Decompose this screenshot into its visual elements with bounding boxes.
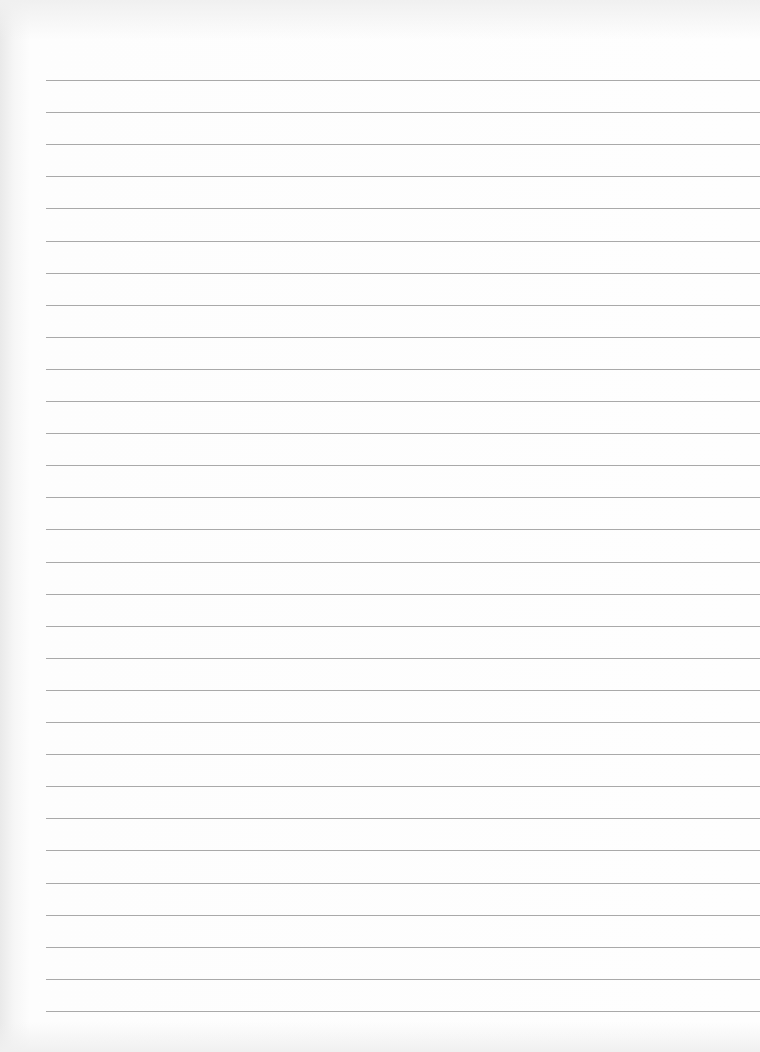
ruled-line [46, 1011, 760, 1012]
ruled-line [46, 754, 760, 755]
ruled-line [46, 497, 760, 498]
ruled-line [46, 369, 760, 370]
ruled-line [46, 401, 760, 402]
ruled-line [46, 915, 760, 916]
ruled-line [46, 208, 760, 209]
ruled-line [46, 273, 760, 274]
ruled-line [46, 433, 760, 434]
lined-paper-sheet [0, 0, 760, 1052]
ruled-line [46, 529, 760, 530]
ruled-line [46, 594, 760, 595]
ruled-line [46, 883, 760, 884]
paper-top-shading [0, 0, 760, 40]
ruled-line [46, 176, 760, 177]
ruled-line [46, 947, 760, 948]
ruled-line [46, 658, 760, 659]
ruled-line [46, 465, 760, 466]
ruled-line [46, 562, 760, 563]
ruled-line [46, 112, 760, 113]
ruled-line [46, 80, 760, 81]
ruled-line [46, 690, 760, 691]
ruled-line [46, 818, 760, 819]
paper-bottom-shading [0, 1022, 760, 1052]
ruled-line [46, 337, 760, 338]
ruled-line [46, 850, 760, 851]
ruled-line [46, 144, 760, 145]
ruled-line [46, 241, 760, 242]
ruled-line [46, 979, 760, 980]
ruled-line [46, 786, 760, 787]
ruled-line [46, 722, 760, 723]
ruled-line [46, 305, 760, 306]
ruled-line [46, 626, 760, 627]
